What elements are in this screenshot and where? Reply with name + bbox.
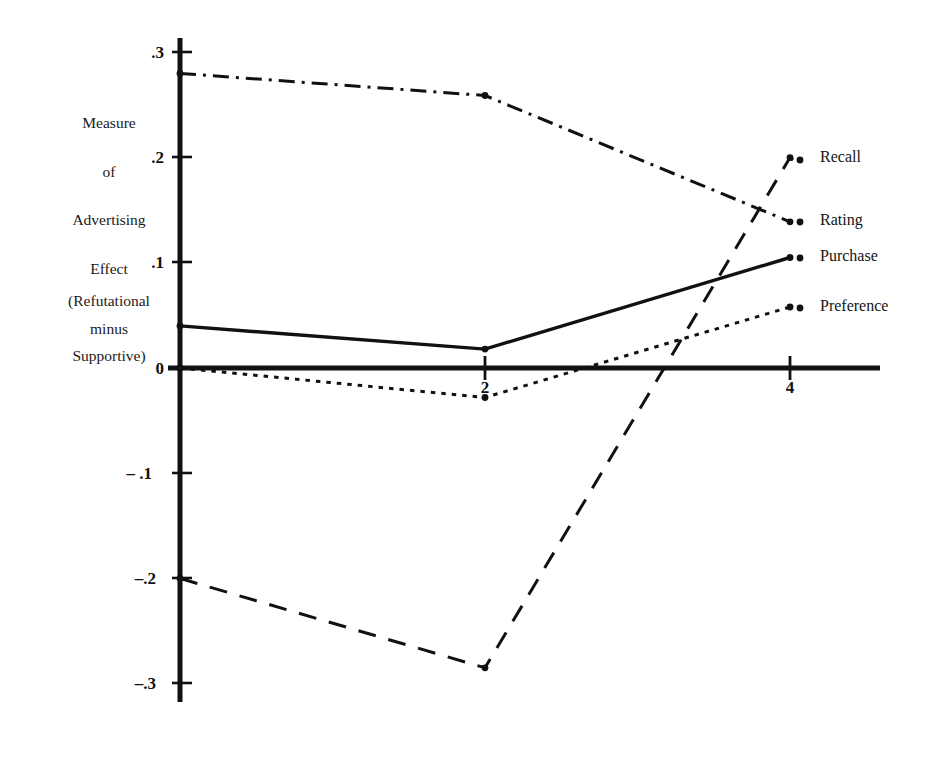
data-point-purchase-0 [177, 323, 184, 330]
data-point-rating-1 [482, 92, 489, 99]
data-point-recall-0 [177, 575, 184, 582]
series-rating [177, 70, 794, 225]
data-point-purchase-1 [482, 346, 489, 353]
legend-marker-preference [797, 305, 804, 312]
legend-entry-recall [790, 157, 803, 164]
legend-leader-purchase [790, 258, 793, 259]
data-point-preference-1 [482, 394, 489, 401]
legend-marker-purchase [797, 255, 804, 262]
chart-figure: Measure of Advertising Effect (Refutatio… [0, 0, 926, 758]
legend-marker-recall [797, 157, 804, 164]
series-recall [177, 154, 794, 671]
legend-leader-preference [790, 307, 793, 308]
legend-swatches [790, 157, 803, 312]
series-purchase [177, 254, 794, 352]
series-line-recall [180, 158, 790, 668]
data-point-recall-1 [482, 664, 489, 671]
legend-marker-rating [797, 219, 804, 226]
legend-leader-recall [790, 158, 793, 160]
data-point-preference-0 [177, 365, 184, 372]
data-point-rating-0 [177, 70, 184, 77]
plot-area [0, 0, 926, 758]
